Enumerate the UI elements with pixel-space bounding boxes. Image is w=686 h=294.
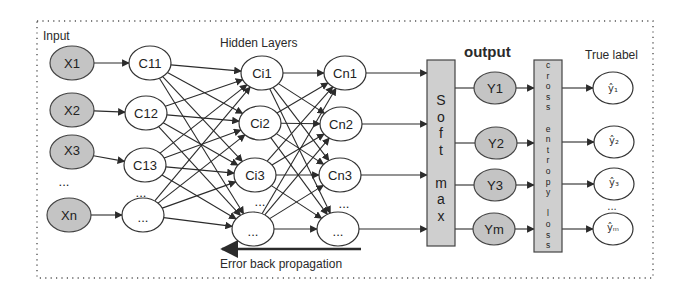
cross-entropy-letter: s [546,230,550,240]
ci-ellipsis: ... [255,194,266,209]
softmax-box: Softmax [427,60,455,246]
last-hidden-layer: Cn1 Cn2 Cn3 ... ... [317,56,366,246]
edge-c11-ci1 [171,65,241,71]
cross-entropy-letter: p [546,177,551,187]
node-y2-label: Y2 [488,136,504,151]
cross-entropy-letter: r [547,71,550,81]
edge-c14-ci4 [164,218,233,227]
node-y3-label: Y3 [487,178,503,193]
true-label-label: True label [585,48,638,62]
edge-c14-ci1 [155,87,250,201]
edge-c14-ci3 [162,182,236,208]
cross-entropy-letter: o [546,219,551,229]
cross-entropy-letter: l [547,208,549,218]
hidden-layers-label: Hidden Layers [220,36,297,50]
cross-entropy-letter: n [546,134,551,144]
edge-x2-c12 [94,111,125,112]
node-yhat1-label: ŷ₁ [608,83,618,94]
first-hidden-layer: C11 C12 C13 ... ... [122,46,171,232]
node-x2-label: X2 [64,103,80,118]
softmax-letter: f [439,125,443,141]
node-yhatm-label: ŷₘ [607,222,619,233]
neural-network-diagram: Input Hidden Layers output True label X1… [0,0,686,294]
true-label-layer: ŷ₁ ŷ₂ ŷ₃ ... ŷₘ [593,72,634,245]
node-cn3-label: Cn3 [328,168,352,183]
cross-entropy-box: crossentropyloss [534,60,562,252]
node-yhat3-label: ŷ₃ [609,177,619,188]
node-x1-label: X1 [64,56,80,71]
node-c12-label: C12 [134,106,158,121]
node-c13-label: C13 [133,158,157,173]
cross-entropy-letter: s [546,102,550,112]
input-layer: X1 X2 X3 ... Xn [47,46,94,232]
node-cn2-label: Cn2 [329,117,353,132]
node-ci3-label: Ci3 [245,168,265,183]
error-back-propagation-label: Error back propagation [220,257,342,271]
node-y1-label: Y1 [487,81,503,96]
node-cin-label: ... [248,224,259,239]
output-label: output [464,43,511,60]
softmax-letter: a [437,191,445,207]
node-ci2-label: Ci2 [250,116,270,131]
node-cnn-label: ... [333,224,344,239]
node-ci1-label: Ci1 [252,66,272,81]
softmax-letter: S [436,92,445,108]
edge-c13-ci4 [162,175,236,219]
softmax-letter: x [438,208,445,224]
softmax-letter: o [437,109,445,125]
output-layer: Y1 Y2 Y3 Ym [473,72,517,245]
softmax-letter: m [435,175,447,191]
yhat-ellipsis: ... [607,201,617,212]
node-cn1-label: Cn1 [333,66,357,81]
edge-ci4-cn1 [262,88,336,213]
node-ym-label: Ym [484,222,504,237]
node-c11-label: C11 [139,56,162,71]
input-label: Input [43,29,70,43]
edge-c11-ci3 [163,77,243,162]
cross-entropy-letter: o [546,166,551,176]
node-c1n-label: ... [138,210,149,225]
cn-ellipsis: ... [339,196,350,211]
node-yhat2-label: ŷ₂ [609,135,619,146]
softmax-letter: t [439,142,443,158]
input-ellipsis: ... [59,174,70,189]
node-x3-label: X3 [64,143,80,158]
edge-c12-ci1 [165,80,242,107]
cross-entropy-letter: s [546,92,550,102]
cross-entropy-letter: o [546,81,551,91]
edge-x3-c13 [93,156,124,162]
cross-entropy-letter: r [547,155,550,165]
middle-hidden-layer: Ci1 Ci2 Ci3 ... ... [232,56,283,246]
cross-entropy-letter: e [546,124,551,134]
node-xn-label: Xn [61,208,77,223]
cross-entropy-letter: s [546,240,550,250]
c-ellipsis: ... [136,185,147,200]
